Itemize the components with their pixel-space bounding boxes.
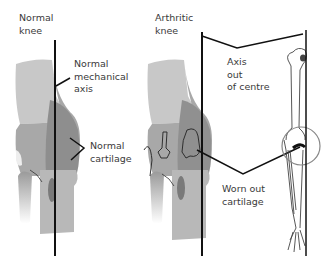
axis-out-of-centre-leader: [202, 34, 303, 48]
normal-knee-title: Normalknee: [19, 12, 53, 37]
worn-cartilage-leader: [197, 147, 300, 174]
worn-out-cartilage-label: Worn outcartilage: [222, 183, 265, 208]
arthritic-knee-title: Arthriticknee: [155, 12, 193, 37]
axis-out-of-centre-label: Axisoutof centre: [227, 56, 270, 94]
normal-mechanical-axis-label: Normalmechanicalaxis: [74, 58, 129, 96]
leg-skeleton-illustration: [284, 48, 307, 252]
normal-cartilage-label: Normalcartilage: [90, 140, 132, 165]
knee-diagram: [0, 0, 329, 268]
hip-joint: [300, 55, 306, 62]
axis-label-leader: [56, 78, 70, 86]
